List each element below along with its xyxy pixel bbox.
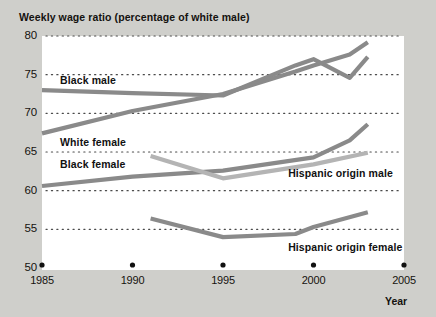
y-axis-tick-label: 75: [9, 68, 37, 80]
y-axis-tick-label: 50: [9, 261, 37, 273]
series-label: Hispanic origin female: [288, 241, 402, 253]
y-axis-tick-label: 80: [9, 29, 37, 41]
x-tick-dot: [220, 262, 225, 267]
x-axis-tick-label: 1985: [15, 274, 69, 286]
series-label: Black male: [60, 74, 116, 86]
series-label: White female: [60, 136, 126, 148]
series-label: Hispanic origin male: [288, 167, 393, 179]
x-axis-tick-label: 2000: [287, 274, 341, 286]
x-axis-tick-label: 1995: [196, 274, 250, 286]
y-axis-tick-label: 60: [9, 184, 37, 196]
x-axis-label: Year: [385, 295, 407, 307]
x-tick-dot: [130, 262, 135, 267]
chart-figure: Weekly wage ratio (percentage of white m…: [0, 0, 436, 317]
y-axis-tick-label: 65: [9, 145, 37, 157]
x-tick-dot: [311, 262, 316, 267]
x-axis-tick-label: 1990: [106, 274, 160, 286]
x-tick-dot: [39, 262, 44, 267]
x-tick-dot: [401, 262, 406, 267]
y-axis-tick-label: 70: [9, 106, 37, 118]
chart-title: Weekly wage ratio (percentage of white m…: [19, 11, 250, 23]
y-axis-tick-label: 55: [9, 222, 37, 234]
plot-background: [42, 36, 404, 270]
x-axis-tick-label: 2005: [377, 274, 431, 286]
series-label: Black female: [60, 158, 125, 170]
